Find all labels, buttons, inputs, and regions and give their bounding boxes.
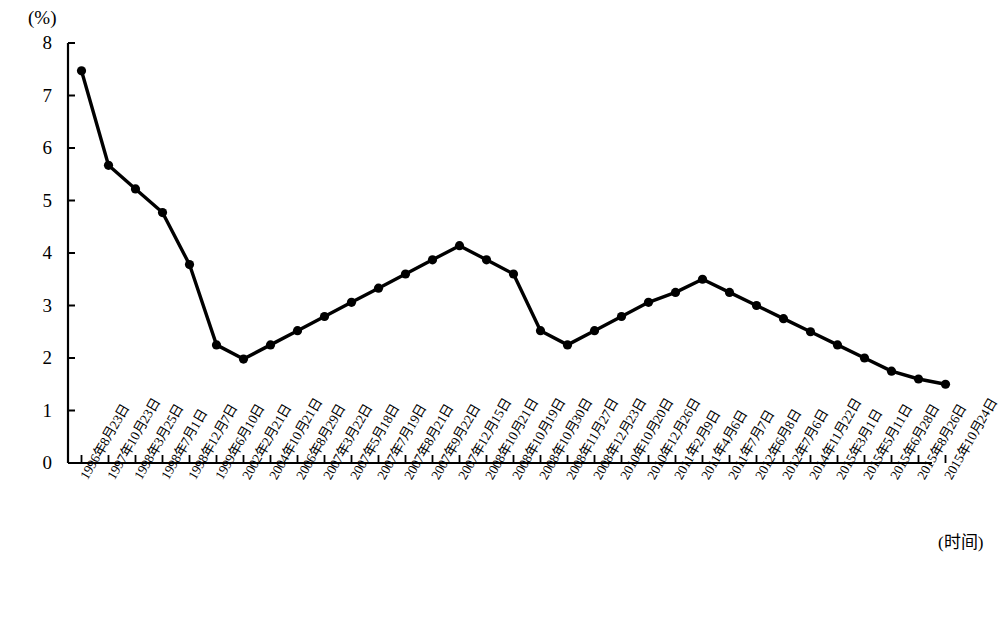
- y-axis-tick-label: 6: [28, 138, 52, 157]
- data-point: [644, 298, 653, 307]
- y-axis-tick-label: 8: [28, 33, 52, 52]
- data-point: [374, 284, 383, 293]
- data-point: [428, 255, 437, 264]
- data-point-markers: [77, 66, 950, 389]
- y-axis-tick-label: 2: [28, 348, 52, 367]
- data-point: [779, 314, 788, 323]
- data-point: [725, 288, 734, 297]
- y-axis-tick-label: 3: [28, 296, 52, 315]
- data-point: [347, 298, 356, 307]
- data-point: [509, 269, 518, 278]
- data-point: [131, 184, 140, 193]
- data-point: [104, 161, 113, 170]
- x-axis-ticks: [82, 455, 946, 463]
- y-axis-tick-label: 5: [28, 191, 52, 210]
- data-point: [455, 241, 464, 250]
- data-point: [887, 367, 896, 376]
- axis-group: [68, 43, 946, 463]
- line-chart-plot: [0, 0, 1008, 642]
- y-axis-tick-label: 0: [28, 453, 52, 472]
- data-point: [671, 288, 680, 297]
- data-point: [482, 255, 491, 264]
- data-point: [590, 326, 599, 335]
- data-point: [941, 380, 950, 389]
- data-point: [536, 326, 545, 335]
- data-point: [239, 354, 248, 363]
- data-point: [833, 340, 842, 349]
- data-point: [77, 66, 86, 75]
- data-point: [563, 340, 572, 349]
- data-point: [185, 260, 194, 269]
- data-point: [860, 353, 869, 362]
- data-point: [293, 326, 302, 335]
- data-point: [158, 208, 167, 217]
- x-axis-title: (时间): [938, 534, 983, 551]
- y-axis-tick-label: 1: [28, 401, 52, 420]
- chart-container: (%) 012345678 1996年8月23日1997年10月23日1998年…: [0, 0, 1008, 642]
- data-series-line: [82, 71, 946, 384]
- data-point: [212, 340, 221, 349]
- y-axis-tick-label: 7: [28, 86, 52, 105]
- data-point: [752, 301, 761, 310]
- data-point: [320, 312, 329, 321]
- data-point: [401, 269, 410, 278]
- data-point: [698, 275, 707, 284]
- data-point: [617, 312, 626, 321]
- data-point: [266, 340, 275, 349]
- data-point: [806, 327, 815, 336]
- data-point: [914, 374, 923, 383]
- y-axis-tick-label: 4: [28, 243, 52, 262]
